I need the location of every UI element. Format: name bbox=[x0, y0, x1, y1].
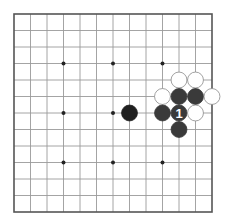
star-point bbox=[62, 111, 66, 115]
star-point bbox=[111, 161, 115, 165]
stone-circle bbox=[188, 72, 204, 88]
star-point bbox=[161, 62, 165, 66]
black-stone: 1 bbox=[171, 105, 187, 121]
stone-circle bbox=[188, 89, 204, 105]
stone-circle bbox=[155, 89, 171, 105]
star-point bbox=[111, 62, 115, 66]
black-stone bbox=[122, 105, 138, 121]
white-stone bbox=[188, 105, 204, 121]
stone-circle bbox=[171, 89, 187, 105]
white-stone bbox=[204, 89, 220, 105]
black-stone bbox=[171, 122, 187, 138]
move-number-label: 1 bbox=[175, 106, 182, 121]
white-stone bbox=[155, 89, 171, 105]
stone-circle bbox=[122, 105, 138, 121]
go-board: 1 bbox=[0, 0, 233, 224]
white-stone bbox=[188, 72, 204, 88]
star-point bbox=[161, 161, 165, 165]
white-stone bbox=[171, 72, 187, 88]
stone-circle bbox=[204, 89, 220, 105]
star-point bbox=[62, 161, 66, 165]
star-point bbox=[62, 62, 66, 66]
black-stone bbox=[188, 89, 204, 105]
stones-layer: 1 bbox=[122, 72, 220, 137]
black-stone bbox=[155, 105, 171, 121]
star-point bbox=[111, 111, 115, 115]
stone-circle bbox=[155, 105, 171, 121]
stone-circle bbox=[171, 72, 187, 88]
stone-circle bbox=[188, 105, 204, 121]
stone-circle bbox=[171, 122, 187, 138]
black-stone bbox=[171, 89, 187, 105]
